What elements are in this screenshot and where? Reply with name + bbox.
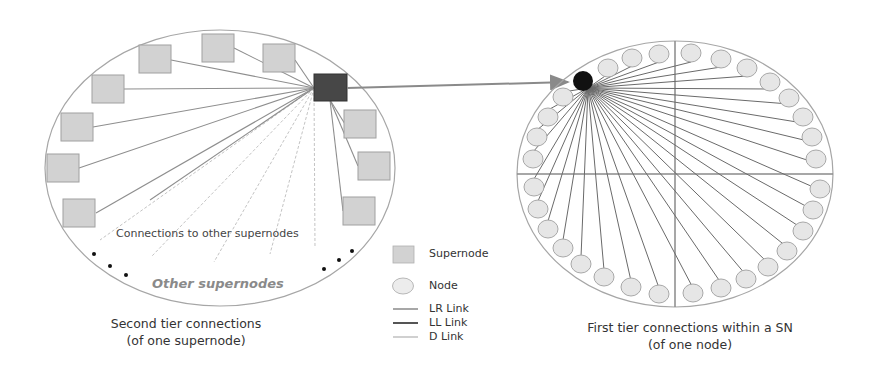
- first-tier-caption-line2: (of one node): [580, 336, 800, 353]
- node-icon: [527, 128, 547, 146]
- node-icon: [737, 59, 757, 77]
- second-tier-caption-line1: Second tier connections: [96, 315, 276, 332]
- node-icon: [777, 242, 797, 260]
- first-tier-caption: First tier connections within a SN (of o…: [580, 319, 800, 353]
- node-icon: [736, 270, 756, 288]
- node-icon: [711, 50, 731, 68]
- supernode-icon: [139, 45, 171, 73]
- node-icon: [553, 88, 573, 106]
- legend-label-lr-link: LR Link: [429, 302, 469, 315]
- ll-links: [533, 62, 820, 288]
- selected-node-icon: [573, 71, 593, 91]
- node-icon: [524, 178, 544, 196]
- supernode-icon: [344, 110, 376, 138]
- supernode-icon: [263, 44, 295, 72]
- node-icon: [538, 108, 558, 126]
- node-icon: [598, 59, 618, 77]
- node-icon: [681, 44, 701, 62]
- supernode-boundary-ellipse: [45, 30, 395, 306]
- supernode-icon: [358, 152, 390, 180]
- node-icon: [779, 89, 799, 107]
- legend-node-icon: [393, 278, 414, 294]
- legend-label-supernode: Supernode: [429, 247, 489, 260]
- node-icon: [622, 49, 642, 67]
- legend-label-node: Node: [429, 279, 458, 292]
- first-tier-panel: [517, 41, 833, 307]
- node-icon: [793, 222, 813, 240]
- legend-supernode-icon: [393, 246, 414, 263]
- legend-label-ll-link: LL Link: [429, 316, 467, 329]
- first-tier-caption-line1: First tier connections within a SN: [580, 319, 800, 336]
- node-icon: [649, 285, 669, 303]
- supernode-icon: [92, 75, 124, 103]
- node-icon: [594, 268, 614, 286]
- supernodes: [47, 34, 390, 227]
- legend-label-d-link: D Link: [429, 330, 464, 343]
- supernode-icon: [202, 34, 234, 62]
- node-icon: [711, 279, 731, 297]
- node-icon: [803, 201, 823, 219]
- second-tier-caption-line2: (of one supernode): [96, 332, 276, 349]
- supernode-icon: [63, 199, 95, 227]
- node-icon: [758, 258, 778, 276]
- lr-links: [79, 48, 358, 213]
- ellipsis-dots: [92, 249, 354, 277]
- node-icon: [523, 150, 543, 168]
- second-tier-caption: Second tier connections (of one supernod…: [96, 315, 276, 349]
- second-tier-panel: [45, 30, 395, 306]
- node-icon: [806, 150, 826, 168]
- node-icon: [649, 45, 669, 63]
- node-icon: [538, 220, 558, 238]
- supernode-icon: [61, 113, 93, 141]
- node-icon: [528, 200, 548, 218]
- zoom-arrow: [347, 82, 568, 88]
- node-icon: [810, 180, 830, 198]
- connections-to-other-supernodes-label: Connections to other supernodes: [116, 227, 299, 240]
- node-icon: [621, 278, 641, 296]
- node-icon: [683, 284, 703, 302]
- node-icon: [793, 108, 813, 126]
- node-icon: [802, 128, 822, 146]
- other-supernodes-label: Other supernodes: [152, 276, 284, 291]
- legend-graphics: [393, 246, 419, 337]
- node-icon: [571, 255, 591, 273]
- node-icon: [760, 73, 780, 91]
- selected-supernode-icon: [314, 74, 347, 101]
- node-icon: [553, 239, 573, 257]
- supernode-icon: [47, 154, 79, 182]
- supernode-icon: [343, 197, 375, 225]
